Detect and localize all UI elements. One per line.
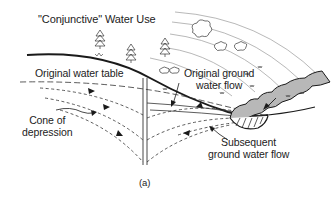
shrub-icon: [159, 20, 246, 73]
label-subsequent-line2: ground water flow: [208, 148, 289, 160]
well-icon: [143, 78, 147, 165]
label-original-ground-water-flow-line1: Original ground: [184, 67, 254, 79]
label-original-ground-water-flow: Original ground water flow: [184, 67, 254, 91]
label-subsequent-ground-water-flow: Subsequent ground water flow: [208, 136, 289, 160]
label-cone-of-depression: Cone of depression: [22, 114, 72, 138]
label-cone-of-depression-line1: Cone of: [22, 114, 72, 126]
figure-caption: (a): [139, 177, 150, 189]
leader-lines: [56, 83, 228, 140]
ground-surface-right: [268, 107, 315, 115]
tree-icon: [95, 30, 170, 63]
label-original-ground-water-flow-line2: water flow: [184, 79, 254, 91]
conjunctive-water-use-diagram: [0, 0, 335, 199]
label-original-water-table: Original water table: [35, 67, 123, 79]
label-cone-of-depression-line2: depression: [22, 126, 72, 138]
label-subsequent-line1: Subsequent: [208, 136, 289, 148]
figure-title: "Conjunctive" Water Use: [38, 13, 156, 25]
